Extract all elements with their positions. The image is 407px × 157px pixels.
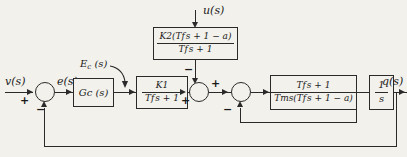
plant-numerator: Tf s + 1 bbox=[271, 81, 356, 93]
wire-outer-feedback-horizontal bbox=[44, 146, 397, 147]
feedforward-expression: K2(Tf s + 1 − a) Tf s + 1 bbox=[157, 32, 235, 54]
block-diagram: u(s) K2(Tf s + 1 − a) Tf s + 1 − v(s) + … bbox=[0, 0, 407, 157]
wire-inner-feedback-horizontal bbox=[240, 122, 357, 123]
plant-block: Tf s + 1 Tms(Tf s + 1 − a) bbox=[270, 75, 357, 110]
sign-sum2-right: + bbox=[211, 78, 220, 89]
wire-outer-feedback-up bbox=[44, 108, 45, 147]
summing-junction-1 bbox=[35, 82, 55, 102]
feedforward-block: K2(Tf s + 1 − a) Tf s + 1 bbox=[153, 27, 238, 60]
sign-sum2-top: − bbox=[184, 64, 193, 75]
plant-denominator: Tms(Tf s + 1 − a) bbox=[271, 93, 356, 104]
arrowhead-outer-feedback-into-sum1 bbox=[41, 101, 47, 107]
gain-expression: K1 Tf s + 1 bbox=[142, 81, 182, 103]
wire-outer-feedback-down bbox=[396, 92, 397, 147]
feedforward-denominator: Tf s + 1 bbox=[157, 44, 235, 55]
arrowhead-into-gain bbox=[129, 89, 135, 95]
arrowhead-q-output bbox=[399, 89, 405, 95]
feedforward-numerator: K2(Tf s + 1 − a) bbox=[157, 32, 235, 44]
signal-label-u: u(s) bbox=[203, 5, 224, 16]
sign-sum2-left: + bbox=[181, 95, 190, 106]
signal-label-ec: Ec (s) bbox=[80, 59, 107, 71]
summing-junction-3 bbox=[231, 82, 251, 102]
sign-sum3-bottom: − bbox=[223, 104, 232, 115]
wire-inner-feedback-down bbox=[356, 92, 357, 123]
controller-label: Gc (s) bbox=[79, 87, 109, 98]
ec-leader-arrow bbox=[108, 64, 132, 90]
sign-sum1-left: + bbox=[20, 95, 29, 106]
integrator-denominator: s bbox=[375, 93, 387, 105]
summing-junction-2 bbox=[189, 82, 209, 102]
gain-denominator: Tf s + 1 bbox=[142, 93, 182, 104]
arrowhead-into-sum3 bbox=[222, 89, 228, 95]
signal-label-q: q(s) bbox=[382, 76, 403, 87]
wire-inner-feedback-up bbox=[240, 108, 241, 123]
signal-label-v: v(s) bbox=[5, 76, 25, 87]
plant-expression: Tf s + 1 Tms(Tf s + 1 − a) bbox=[271, 81, 356, 103]
gain-numerator: K1 bbox=[142, 81, 182, 93]
arrowhead-into-controller bbox=[66, 89, 72, 95]
arrowhead-inner-feedback-into-sum3 bbox=[237, 101, 243, 107]
arrowhead-into-plant bbox=[263, 89, 269, 95]
